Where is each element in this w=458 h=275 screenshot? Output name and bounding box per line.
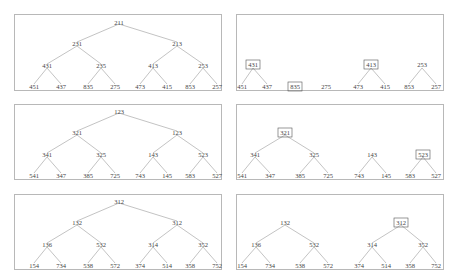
leaf-node: 275	[321, 83, 331, 90]
leaf-node: 835	[290, 83, 300, 90]
leaf-node: 527	[212, 172, 223, 179]
leaf-node: 734	[265, 262, 276, 269]
node: 314	[367, 241, 378, 248]
node: 413	[148, 62, 158, 69]
panel-right-1: 431 413 253 451 437 835 275 473 415 853 …	[236, 14, 444, 91]
node: 325	[96, 151, 106, 158]
node: 341	[42, 151, 52, 158]
root-node: 123	[114, 108, 124, 115]
leaf-node: 374	[135, 262, 146, 269]
leaf-node: 527	[431, 172, 442, 179]
leaf-node: 451	[237, 83, 247, 90]
leaf-node: 743	[354, 172, 364, 179]
leaf-node: 385	[83, 172, 93, 179]
panel-left-1: 211 231 213 431 235 413 253 451 437 835 …	[14, 14, 222, 91]
leaf-node: 538	[83, 262, 93, 269]
node: 132	[280, 219, 290, 226]
forest-diagram: 321 341 325 143 523 541 347 385 725 743 …	[237, 105, 445, 181]
node: 532	[309, 241, 319, 248]
node: 312	[396, 219, 406, 226]
node: 321	[280, 129, 290, 136]
leaf-node: 541	[29, 172, 39, 179]
leaf-node: 374	[354, 262, 365, 269]
panel-left-2: 123 321 123 341 325 143 523 541 347 385 …	[14, 104, 222, 180]
leaf-node: 514	[381, 262, 392, 269]
leaf-node: 853	[404, 83, 414, 90]
node: 523	[198, 151, 208, 158]
leaf-node: 347	[265, 172, 276, 179]
leaf-node: 358	[405, 262, 415, 269]
node: 413	[366, 61, 376, 68]
forest-diagram: 132 312 136 532 314 352 154 734 538 572 …	[237, 195, 445, 271]
leaf-node: 437	[262, 83, 273, 90]
tree-diagram: 211 231 213 431 235 413 253 451 437 835 …	[15, 15, 223, 92]
leaf-node: 473	[135, 83, 145, 90]
leaf-node: 835	[83, 83, 93, 90]
node: 235	[96, 62, 106, 69]
node: 136	[42, 241, 53, 248]
leaf-node: 358	[185, 262, 195, 269]
leaf-node: 743	[135, 172, 145, 179]
panel-right-3: 132 312 136 532 314 352 154 734 538 572 …	[236, 194, 444, 270]
root-node: 312	[114, 198, 124, 205]
leaf-node: 572	[110, 262, 120, 269]
node: 352	[198, 241, 208, 248]
node: 143	[148, 151, 158, 158]
leaf-node: 514	[162, 262, 173, 269]
node: 431	[248, 61, 258, 68]
node: 253	[198, 62, 208, 69]
leaf-node: 583	[405, 172, 415, 179]
leaf-node: 145	[381, 172, 391, 179]
leaf-node: 415	[162, 83, 172, 90]
node: 532	[96, 241, 106, 248]
panel-right-2: 321 341 325 143 523 541 347 385 725 743 …	[236, 104, 444, 180]
leaf-node: 154	[237, 262, 248, 269]
node: 352	[418, 241, 428, 248]
leaf-node: 725	[323, 172, 333, 179]
leaf-node: 145	[162, 172, 172, 179]
node: 325	[309, 151, 319, 158]
node: 253	[417, 61, 427, 68]
leaf-node: 853	[185, 83, 195, 90]
node: 314	[148, 241, 159, 248]
node: 123	[172, 129, 182, 136]
leaf-node: 385	[295, 172, 305, 179]
node: 341	[250, 151, 260, 158]
leaf-node: 752	[431, 262, 441, 269]
root-node: 211	[114, 19, 124, 26]
node: 523	[418, 151, 428, 158]
node: 213	[172, 40, 182, 47]
leaf-node: 725	[110, 172, 120, 179]
leaf-node: 275	[110, 83, 120, 90]
node: 321	[72, 129, 82, 136]
tree-diagram: 123 321 123 341 325 143 523 541 347 385 …	[15, 105, 223, 181]
node: 132	[72, 219, 82, 226]
leaf-node: 538	[295, 262, 305, 269]
node: 312	[172, 219, 182, 226]
leaf-node: 734	[56, 262, 67, 269]
leaf-node: 415	[380, 83, 390, 90]
node: 136	[251, 241, 262, 248]
panel-left-3: 312 132 312 136 532 314 352 154 734 538 …	[14, 194, 222, 270]
leaf-node: 583	[185, 172, 195, 179]
node: 143	[367, 151, 377, 158]
node: 431	[42, 62, 52, 69]
leaf-node: 257	[431, 83, 442, 90]
leaf-node: 347	[56, 172, 67, 179]
node: 231	[72, 40, 82, 47]
leaf-node: 437	[56, 83, 67, 90]
leaf-node: 572	[323, 262, 333, 269]
leaf-node: 451	[29, 83, 39, 90]
leaf-node: 257	[212, 83, 223, 90]
leaf-node: 473	[353, 83, 363, 90]
tree-diagram: 312 132 312 136 532 314 352 154 734 538 …	[15, 195, 223, 271]
leaf-node: 752	[212, 262, 222, 269]
leaf-node: 154	[29, 262, 40, 269]
forest-diagram: 431 413 253 451 437 835 275 473 415 853 …	[237, 15, 445, 92]
leaf-node: 541	[237, 172, 247, 179]
